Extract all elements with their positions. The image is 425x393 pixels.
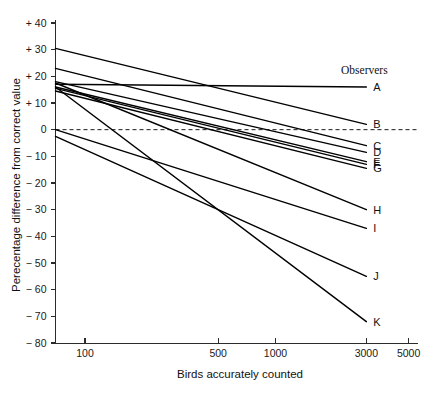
y-tick-label-4: 0 (41, 123, 47, 135)
series-label-i: I (373, 222, 376, 234)
x-axis: 100500100030005000 (56, 338, 421, 359)
y-tick-label-6: − 20 (26, 177, 47, 189)
x-axis-title: Birds accurately counted (177, 368, 303, 380)
x-tick-label-3: 3000 (355, 347, 379, 359)
series-label-k: K (373, 316, 381, 328)
x-tick-label-1: 500 (209, 347, 227, 359)
y-tick-label-1: + 30 (26, 43, 47, 55)
y-tick-label-2: + 20 (26, 70, 47, 82)
y-tick-label-7: − 30 (26, 203, 47, 215)
y-tick-label-8: − 40 (26, 230, 47, 242)
y-axis-title: Perecentage difference from correct valu… (10, 78, 22, 292)
series-line-f (56, 88, 367, 164)
series-line-i (56, 130, 367, 229)
y-tick-label-3: + 10 (26, 97, 47, 109)
series-label-a: A (373, 81, 381, 93)
chart-figure: + 40+ 30+ 20+ 100− 10− 20− 30− 40− 50− 6… (0, 0, 425, 393)
y-tick-label-9: − 50 (26, 257, 47, 269)
line-chart-canvas: + 40+ 30+ 20+ 100− 10− 20− 30− 40− 50− 6… (0, 0, 425, 393)
y-axis: + 40+ 30+ 20+ 100− 10− 20− 30− 40− 50− 6… (26, 17, 56, 349)
legend-title: Observers (341, 64, 388, 76)
series-line-k (56, 87, 367, 322)
y-tick-label-10: − 60 (26, 283, 47, 295)
data-series-group (56, 48, 367, 321)
x-tick-label-0: 100 (76, 347, 94, 359)
x-tick-label-2: 1000 (264, 347, 288, 359)
series-label-h: H (373, 204, 381, 216)
y-tick-label-12: − 80 (26, 337, 47, 349)
series-end-labels: ABCDEFGHIJK (373, 81, 382, 328)
x-tick-label-4: 5000 (397, 347, 421, 359)
series-label-j: J (373, 270, 379, 282)
y-tick-label-5: − 10 (26, 150, 47, 162)
y-tick-label-0: + 40 (26, 17, 47, 29)
x-axis-ticks (85, 338, 409, 344)
series-label-b: B (373, 118, 380, 130)
series-line-c (56, 68, 367, 145)
x-axis-tick-labels: 100500100030005000 (76, 347, 420, 359)
series-line-h (56, 83, 367, 210)
y-axis-tick-labels: + 40+ 30+ 20+ 100− 10− 20− 30− 40− 50− 6… (26, 17, 47, 349)
series-line-e (56, 87, 367, 162)
y-tick-label-11: − 70 (26, 310, 47, 322)
y-axis-ticks (51, 23, 56, 343)
series-line-d (56, 82, 367, 153)
series-label-g: G (373, 162, 382, 174)
